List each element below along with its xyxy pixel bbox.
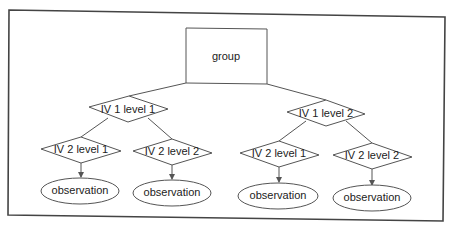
node-iv1-level1-label: IV 1 level 1 (101, 103, 155, 115)
edge-iv1l2-iv2l1-b (279, 121, 306, 141)
leaf-observation-4: observation (333, 185, 411, 211)
node-iv1-level1: IV 1 level 1 (89, 96, 168, 122)
edge-group-iv1l2 (267, 84, 326, 100)
node-iv2-level2-a-label: IV 2 level 2 (145, 145, 199, 157)
node-iv1-level2: IV 1 level 2 (287, 100, 365, 126)
edge-iv1l2-iv2l2-b (346, 121, 372, 143)
edge-iv1l1-iv2l2-a (148, 118, 172, 139)
leaf-observation-2-label: observation (144, 186, 201, 198)
edge-group-iv1l1 (129, 83, 186, 96)
leaf-observation-1: observation (41, 178, 119, 204)
node-iv2-level1-a: IV 2 level 1 (41, 137, 121, 163)
leaf-observation-1-label: observation (52, 184, 109, 196)
node-iv2-level1-b: IV 2 level 1 (240, 141, 319, 167)
node-iv2-level2-a: IV 2 level 2 (133, 139, 212, 165)
node-iv2-level1-b-label: IV 2 level 1 (252, 147, 306, 159)
node-group-label: group (212, 50, 240, 62)
leaf-observation-3: observation (238, 183, 318, 209)
node-iv2-level1-a-label: IV 2 level 1 (54, 143, 108, 155)
tree-diagram: group IV 1 level 1 IV 1 level 2 IV 2 lev… (0, 0, 451, 234)
leaf-observation-2: observation (133, 180, 211, 206)
edge-iv1l1-iv2l1-a (81, 118, 108, 137)
node-iv2-level2-b: IV 2 level 2 (333, 143, 412, 169)
node-iv1-level2-label: IV 1 level 2 (299, 107, 353, 119)
node-iv2-level2-b-label: IV 2 level 2 (345, 149, 399, 161)
node-group: group (186, 28, 267, 84)
leaf-observation-3-label: observation (250, 189, 307, 201)
leaf-observation-4-label: observation (344, 191, 401, 203)
